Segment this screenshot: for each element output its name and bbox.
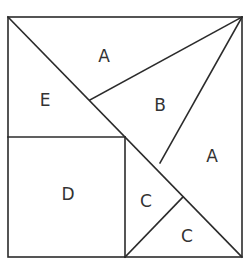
square-dissection-diagram: A E B A D C C — [0, 0, 252, 266]
piece-label-b: B — [154, 95, 166, 115]
piece-label-d: D — [61, 184, 74, 204]
piece-label-a-top: A — [98, 46, 110, 66]
piece-label-a-right: A — [206, 146, 218, 166]
piece-label-e: E — [40, 90, 51, 110]
piece-label-c-bottom: C — [181, 226, 193, 246]
dividing-lines — [8, 17, 242, 257]
piece-label-c-left: C — [140, 191, 152, 211]
c-split-edge-line — [125, 197, 183, 257]
